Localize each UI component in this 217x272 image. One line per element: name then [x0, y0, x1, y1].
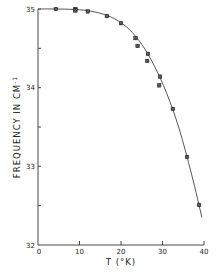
x-tick-label: 40 [200, 248, 209, 256]
y-axis-title-superscript: -1 [11, 76, 18, 84]
data-point-marker [185, 155, 189, 159]
y-tick-label: 34 [26, 84, 35, 92]
x-tick-label: 20 [117, 248, 126, 256]
y-axis-title: FREQUENCY IN CM [12, 84, 22, 178]
y-tick-label: 35 [26, 6, 35, 14]
data-point-marker [86, 10, 90, 14]
data-point-marker [54, 7, 58, 11]
svg-text:FREQUENCY IN CM-1: FREQUENCY IN CM-1 [11, 76, 22, 178]
fit-curve [38, 9, 202, 218]
y-tick-label: 32 [26, 242, 35, 250]
data-point-marker [171, 107, 175, 111]
data-point-marker [105, 14, 109, 18]
frequency-vs-temperature-chart: 010203040 32333435 T (°K) FREQUENCY IN C… [0, 0, 217, 272]
y-ticks: 32333435 [26, 6, 41, 250]
data-point-marker [158, 75, 162, 79]
x-tick-label: 10 [75, 248, 84, 256]
x-tick-label: 30 [158, 248, 167, 256]
x-ticks: 010203040 [37, 241, 209, 256]
data-point-marker [134, 36, 138, 40]
data-point-marker [197, 203, 201, 207]
x-tick-label: 0 [37, 248, 41, 256]
data-markers [54, 7, 201, 206]
data-point-marker [119, 21, 123, 25]
axes [38, 9, 204, 245]
data-point-marker [74, 9, 78, 13]
data-point-marker [136, 44, 140, 48]
x-axis-title: T (°K) [105, 257, 136, 267]
data-point-marker [145, 59, 149, 63]
data-point-marker [157, 84, 161, 88]
y-axis-title-group: FREQUENCY IN CM-1 [11, 76, 22, 178]
data-point-marker [146, 52, 150, 56]
y-tick-label: 33 [26, 163, 35, 171]
